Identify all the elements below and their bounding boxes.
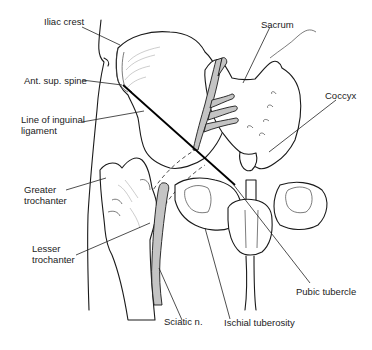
label-ant-sup-spine: Ant. sup. spine: [24, 75, 87, 86]
label-pubic-tubercle: Pubic tubercle: [296, 286, 356, 297]
label-inguinal-ligament-line2: ligament: [21, 125, 57, 136]
label-inguinal-ligament-line1: Line of inguinal: [21, 114, 85, 125]
label-greater-trochanter-line2: trochanter: [24, 195, 67, 206]
label-lesser-trochanter-line1: Lesser: [32, 243, 61, 254]
label-iliac-crest: Iliac crest: [44, 16, 84, 27]
label-lesser-trochanter-line2: trochanter: [32, 254, 75, 265]
label-sciatic-nerve: Sciatic n.: [164, 316, 203, 327]
label-ischial-tuberosity: Ischial tuberosity: [224, 317, 295, 328]
pelvis-hip-diagram: [0, 0, 372, 350]
label-coccyx: Coccyx: [325, 90, 356, 101]
external-genitalia: [228, 199, 272, 310]
femur: [100, 158, 157, 320]
label-sacrum: Sacrum: [261, 19, 294, 30]
coccyx: [240, 152, 257, 171]
label-greater-trochanter-line1: Greater: [24, 184, 56, 195]
